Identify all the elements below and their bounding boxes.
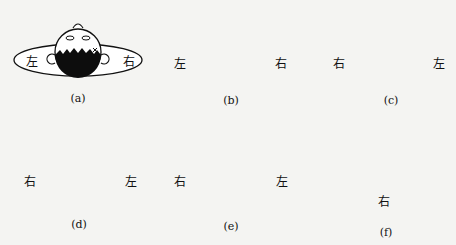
panel-d-left-label: 右 (24, 172, 36, 189)
panel-d-right-label: 左 (125, 172, 137, 189)
panel-b-right-label: 右 (275, 54, 287, 71)
diagram-canvas: 左 右 (a) 左 右 (b) 右 左 (c) 右 左 (d) 右 左 (e) … (0, 0, 456, 245)
panel-a-caption: (a) (63, 92, 93, 105)
panel-a (14, 24, 142, 78)
panel-e-right-label: 左 (276, 172, 288, 189)
panel-e-caption: (e) (216, 220, 246, 233)
panel-b-caption: (b) (216, 94, 246, 107)
panel-c-left-label: 右 (333, 54, 345, 71)
panel-e-left-label: 右 (174, 172, 186, 189)
panel-f-side-label: 右 (378, 192, 390, 209)
panel-b-left-label: 左 (174, 54, 186, 71)
panel-a-right-label: 右 (123, 52, 135, 69)
panel-f-caption: (f) (371, 226, 401, 239)
panel-c-right-label: 左 (433, 54, 445, 71)
panel-a-left-label: 左 (26, 52, 38, 69)
panel-d-caption: (d) (64, 218, 94, 231)
panel-c-caption: (c) (376, 94, 406, 107)
